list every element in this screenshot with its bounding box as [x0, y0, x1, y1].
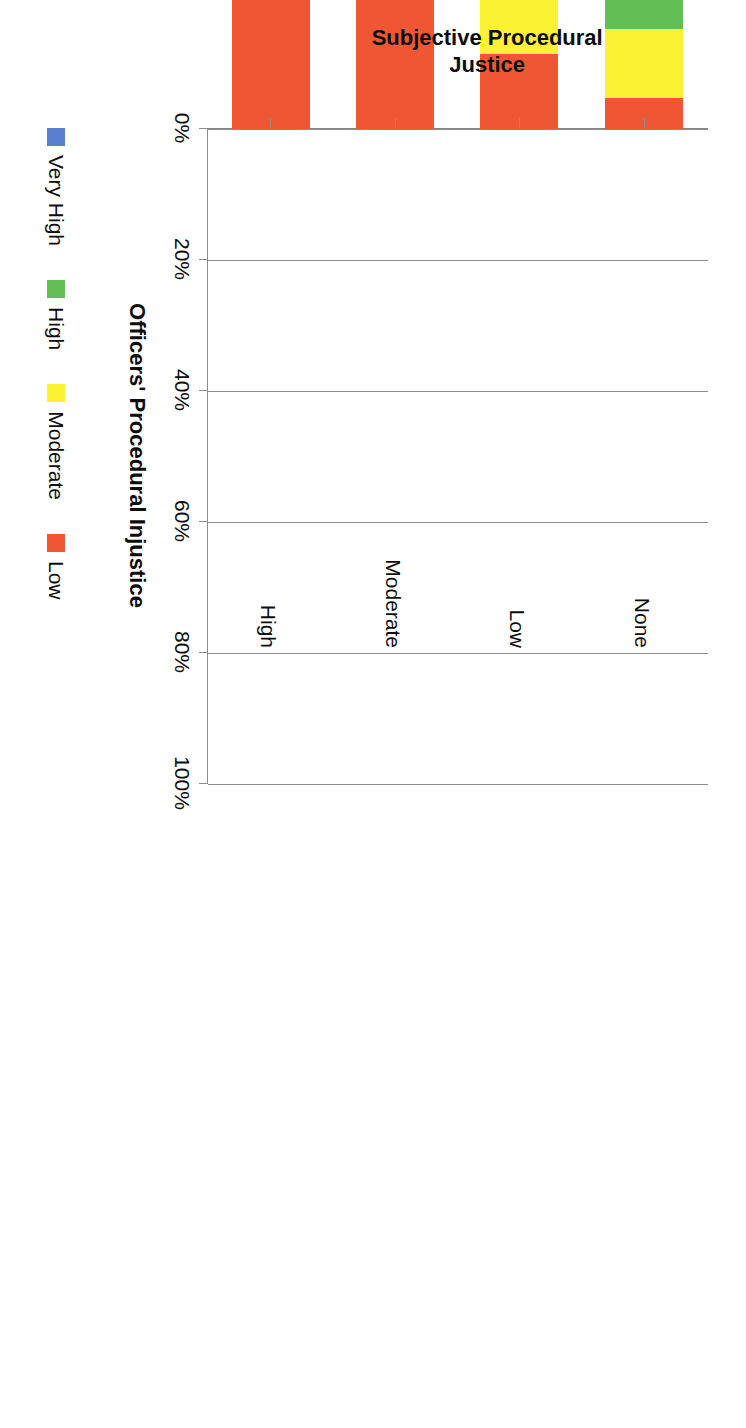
- tick-mark-80: [199, 652, 208, 653]
- category-label-moderate: Moderate: [381, 478, 405, 662]
- legend-swatch-moderate-icon: [47, 384, 65, 402]
- category-tick: [644, 118, 645, 128]
- value-tick-label-40: 40%: [170, 350, 194, 430]
- category-axis-title: Subjective Procedural Justice: [357, 25, 617, 79]
- tick-mark-60: [199, 521, 208, 522]
- plot-area: [208, 128, 708, 784]
- category-label-low: Low: [505, 478, 529, 662]
- value-tick-label-80: 80%: [170, 612, 194, 692]
- value-tick-label-100: 100%: [170, 743, 194, 823]
- category-label-high: High: [256, 478, 280, 662]
- legend-item-moderate[interactable]: Moderate: [44, 384, 68, 500]
- tick-mark-100: [199, 783, 208, 784]
- gridline-0: [208, 129, 708, 130]
- legend-label-very-high: Very High: [44, 155, 68, 246]
- value-tick-label-60: 60%: [170, 481, 194, 561]
- legend-swatch-very-high-icon: [47, 128, 65, 146]
- legend-swatch-low-icon: [47, 534, 65, 552]
- chart-legend: Very High High Moderate Low: [44, 128, 68, 600]
- category-tick: [519, 118, 520, 128]
- gridline-100: [208, 784, 708, 785]
- legend-swatch-high-icon: [47, 280, 65, 298]
- legend-label-low: Low: [44, 561, 68, 600]
- bar-segment-low[interactable]: [232, 0, 310, 129]
- value-axis-title: Officers' Procedural Injustice: [124, 128, 150, 783]
- value-tick-label-20: 20%: [170, 219, 194, 299]
- category-axis-title-line1: Subjective Procedural: [357, 25, 617, 52]
- gridline-40: [208, 391, 708, 392]
- legend-item-high[interactable]: High: [44, 280, 68, 350]
- tick-mark-0: [199, 128, 208, 129]
- legend-label-high: High: [44, 307, 68, 350]
- tick-mark-20: [199, 259, 208, 260]
- chart-figure-wrapper: 0% 20% 40% 60% 80% 100% None Low Moderat…: [0, 0, 746, 1428]
- category-tick: [395, 118, 396, 128]
- stacked-bar-chart: 0% 20% 40% 60% 80% 100% None Low Moderat…: [0, 0, 746, 1428]
- legend-item-very-high[interactable]: Very High: [44, 128, 68, 246]
- value-tick-label-0: 0%: [170, 88, 194, 168]
- category-tick: [270, 118, 271, 128]
- tick-mark-40: [199, 390, 208, 391]
- legend-item-low[interactable]: Low: [44, 534, 68, 600]
- value-axis-line: [207, 128, 208, 784]
- category-label-none: None: [630, 478, 654, 662]
- category-axis-title-line2: Justice: [357, 52, 617, 79]
- gridline-20: [208, 260, 708, 261]
- legend-label-moderate: Moderate: [44, 411, 68, 500]
